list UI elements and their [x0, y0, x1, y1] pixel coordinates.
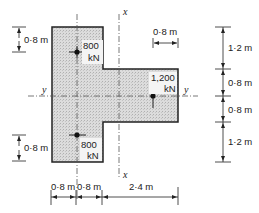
- dim-bottom-label-3: 2·4 m: [129, 181, 153, 192]
- dim-right-label-2: 0·8 m: [228, 77, 252, 88]
- dim-bottom-label-2: 0·8 m: [77, 181, 101, 192]
- load-lower-unit: kN: [87, 150, 99, 161]
- dim-right-label-3: 0·8 m: [228, 104, 252, 115]
- dim-left-top-label: 0·8 m: [24, 34, 48, 45]
- foundation-outline: [52, 27, 178, 162]
- y-axis-label-right: y: [183, 84, 189, 95]
- dim-top-right-label: 0·8 m: [153, 26, 177, 37]
- dim-right-label-4: 1·2 m: [228, 136, 252, 147]
- y-axis-label-left: y: [41, 84, 47, 95]
- dim-right-label-1: 1·2 m: [228, 42, 252, 53]
- load-upper-unit: kN: [88, 52, 100, 63]
- dim-left-bottom-label: 0·8 m: [24, 142, 48, 153]
- dim-bottom-label-1: 0·8 m: [51, 181, 75, 192]
- load-right-unit: kN: [164, 83, 176, 94]
- foundation-diagram: x x y y 800 kN 1,200 kN 800 kN 0·8 m 0·8…: [0, 0, 259, 213]
- load-lower-value: 800: [81, 139, 97, 150]
- load-right-value: 1,200: [151, 72, 175, 83]
- x-axis-label-bottom: x: [122, 169, 128, 180]
- dim-top-right: [153, 38, 178, 48]
- x-axis-label-top: x: [122, 6, 128, 17]
- load-upper-value: 800: [83, 40, 99, 51]
